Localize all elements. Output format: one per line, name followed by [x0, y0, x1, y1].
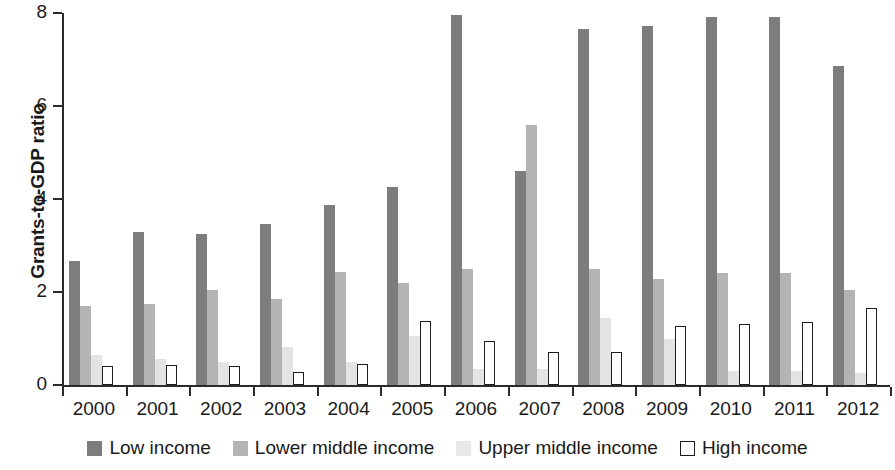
x-tick-label: 2012 [823, 398, 893, 420]
legend-label: Low income [109, 437, 210, 459]
bar [675, 326, 686, 385]
bar [589, 269, 600, 385]
bar-group [324, 13, 368, 385]
bar [357, 364, 368, 385]
bar-group [196, 13, 240, 385]
legend-label: Lower middle income [255, 437, 435, 459]
x-tick-label: 2009 [632, 398, 702, 420]
bar [398, 283, 409, 385]
x-tick-mark [253, 387, 255, 396]
bar [537, 369, 548, 385]
grants-to-gdp-bar-chart: Grants-to-GDP ratio 02468 20002001200220… [0, 0, 895, 470]
bar [260, 224, 271, 385]
x-tick-mark [572, 387, 574, 396]
x-axis-line [62, 385, 890, 387]
y-tick-mark [53, 198, 62, 200]
bar [271, 299, 282, 385]
bar-group [833, 13, 877, 385]
bar-group [706, 13, 750, 385]
x-tick-label: 2006 [441, 398, 511, 420]
bar [218, 362, 229, 385]
bar-group [387, 13, 431, 385]
bar [526, 125, 537, 385]
x-tick-mark [826, 387, 828, 396]
x-tick-mark [189, 387, 191, 396]
bar [102, 366, 113, 385]
bar [780, 273, 791, 385]
legend-swatch-icon [456, 441, 471, 456]
bar [717, 273, 728, 385]
bar-group [451, 13, 495, 385]
bar [196, 234, 207, 385]
bar [80, 306, 91, 385]
bar [484, 341, 495, 385]
bar [133, 232, 144, 385]
y-tick-mark [53, 105, 62, 107]
x-tick-mark [126, 387, 128, 396]
bar-group [515, 13, 559, 385]
bar [69, 261, 80, 385]
legend-swatch-icon [87, 441, 102, 456]
x-tick-label: 2005 [377, 398, 447, 420]
bar [387, 187, 398, 385]
legend-item[interactable]: Low income [87, 437, 210, 459]
bar [844, 290, 855, 385]
bar [282, 347, 293, 385]
x-tick-mark [317, 387, 319, 396]
bar [451, 15, 462, 385]
bar [578, 29, 589, 385]
bar [91, 355, 102, 385]
x-tick-label: 2010 [696, 398, 766, 420]
bar [462, 269, 473, 385]
legend-item[interactable]: High income [680, 437, 808, 459]
x-tick-mark [635, 387, 637, 396]
bar [293, 372, 304, 385]
bar [155, 359, 166, 385]
legend-swatch-icon [233, 441, 248, 456]
y-tick-mark [53, 384, 62, 386]
plot-area [62, 13, 888, 385]
x-tick-label: 2008 [568, 398, 638, 420]
bar [229, 366, 240, 385]
x-tick-label: 2007 [505, 398, 575, 420]
bar [611, 352, 622, 385]
bar [706, 17, 717, 385]
bar [728, 371, 739, 385]
bar [642, 26, 653, 385]
bar-group [578, 13, 622, 385]
x-tick-mark [62, 387, 64, 396]
legend-item[interactable]: Lower middle income [233, 437, 435, 459]
x-tick-mark [508, 387, 510, 396]
y-tick-label: 4 [0, 187, 47, 209]
bar [166, 365, 177, 385]
bar [409, 336, 420, 385]
bar [420, 321, 431, 385]
bar [664, 339, 675, 386]
bar [739, 324, 750, 385]
bar [791, 371, 802, 385]
x-tick-label: 2003 [250, 398, 320, 420]
y-tick-label: 8 [0, 1, 47, 23]
x-tick-label: 2000 [59, 398, 129, 420]
bar [324, 205, 335, 385]
x-tick-mark [380, 387, 382, 396]
y-tick-label: 0 [0, 373, 47, 395]
legend-item[interactable]: Upper middle income [456, 437, 658, 459]
bar [473, 369, 484, 385]
x-tick-mark [890, 387, 892, 396]
x-tick-mark [444, 387, 446, 396]
bar [653, 279, 664, 385]
bar-group [260, 13, 304, 385]
y-tick-label: 2 [0, 280, 47, 302]
legend-label: Upper middle income [478, 437, 658, 459]
bar [335, 272, 346, 385]
bar [144, 304, 155, 385]
bar [866, 308, 877, 385]
x-tick-label: 2002 [186, 398, 256, 420]
bar-group [69, 13, 113, 385]
x-tick-label: 2004 [314, 398, 384, 420]
bar [600, 318, 611, 385]
y-tick-label: 6 [0, 94, 47, 116]
bar-group [133, 13, 177, 385]
legend-swatch-icon [680, 441, 695, 456]
